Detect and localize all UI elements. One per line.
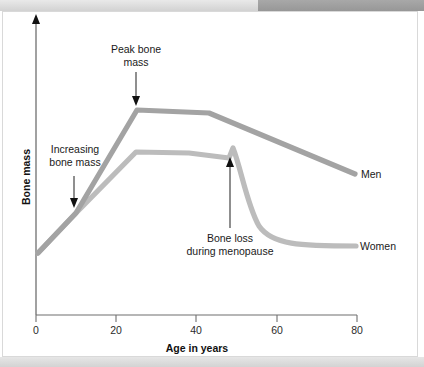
annotation-increasing-bone-mass: Increasing bone mass — [36, 143, 114, 168]
x-tick-label-20: 20 — [104, 324, 128, 336]
annotation-arrow-bone-loss-menopause — [226, 157, 234, 228]
x-axis-title: Age in years — [127, 342, 267, 354]
x-tick-label-0: 0 — [24, 324, 48, 336]
chart-canvas — [0, 0, 424, 367]
series-label-men: Men — [361, 168, 381, 180]
chart-svg — [0, 0, 424, 367]
x-tick-label-80: 80 — [345, 324, 369, 336]
annotation-arrow-peak-bone-mass — [132, 72, 140, 106]
annotation-bone-loss-menopause: Bone loss during menopause — [178, 232, 282, 257]
x-axis — [36, 315, 357, 322]
annotation-peak-bone-mass: Peak bone mass — [96, 43, 176, 68]
bottom-decorative-band — [0, 357, 424, 367]
x-tick-label-40: 40 — [184, 324, 208, 336]
x-tick-label-60: 60 — [265, 324, 289, 336]
annotation-arrow-increasing-bone-mass — [70, 176, 78, 208]
series-label-women: Women — [360, 240, 396, 252]
y-axis-title: Bone mass — [20, 149, 32, 205]
figure-root: Peak bone mass Increasing bone mass Bone… — [0, 0, 424, 367]
